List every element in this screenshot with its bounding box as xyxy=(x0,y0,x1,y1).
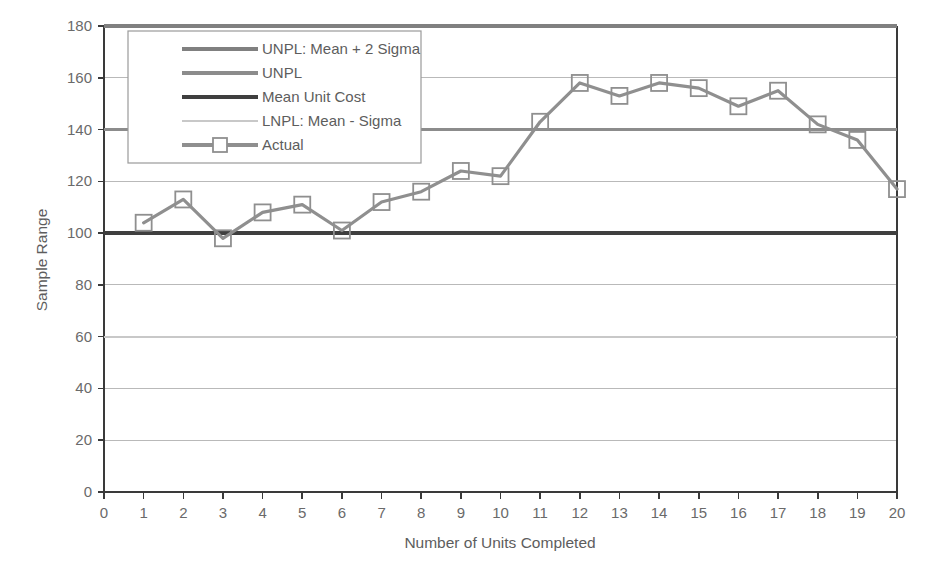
x-tick-label: 7 xyxy=(377,504,385,521)
y-tick-label: 80 xyxy=(75,276,92,293)
x-tick-label: 6 xyxy=(338,504,346,521)
x-tick-label: 17 xyxy=(770,504,787,521)
control-chart: 020406080100120140160180 012345678910111… xyxy=(0,0,941,581)
x-tick-label: 16 xyxy=(730,504,747,521)
x-tick-label: 20 xyxy=(889,504,906,521)
x-tick-label: 15 xyxy=(690,504,707,521)
y-tick-label: 180 xyxy=(67,17,92,34)
x-tick-label: 12 xyxy=(571,504,588,521)
legend-item-label: LNPL: Mean - Sigma xyxy=(262,112,402,129)
y-tick-label: 60 xyxy=(75,328,92,345)
y-tick-label: 0 xyxy=(84,483,92,500)
legend-item-label: Mean Unit Cost xyxy=(262,88,366,105)
y-tick-label: 140 xyxy=(67,121,92,138)
legend: UNPL: Mean + 2 SigmaUNPLMean Unit CostLN… xyxy=(128,31,421,163)
x-tick-label: 5 xyxy=(298,504,306,521)
x-tick-label: 10 xyxy=(492,504,509,521)
x-tick-label: 18 xyxy=(809,504,826,521)
y-tick-label: 40 xyxy=(75,379,92,396)
legend-item-label: Actual xyxy=(262,136,304,153)
x-tick-label: 2 xyxy=(179,504,187,521)
x-tick-label: 1 xyxy=(139,504,147,521)
x-tick-label: 14 xyxy=(651,504,668,521)
x-axis-ticks xyxy=(104,492,897,499)
x-axis-title: Number of Units Completed xyxy=(404,534,595,551)
x-tick-label: 13 xyxy=(611,504,628,521)
y-axis-title: Sample Range xyxy=(33,209,50,312)
legend-swatch-marker xyxy=(213,138,227,152)
x-tick-label: 3 xyxy=(219,504,227,521)
y-tick-label: 160 xyxy=(67,69,92,86)
y-tick-label: 20 xyxy=(75,431,92,448)
y-tick-label: 100 xyxy=(67,224,92,241)
chart-container: 020406080100120140160180 012345678910111… xyxy=(0,0,941,581)
x-tick-label: 19 xyxy=(849,504,866,521)
legend-item-label: UNPL xyxy=(262,64,302,81)
x-tick-label: 0 xyxy=(100,504,108,521)
x-tick-label: 4 xyxy=(258,504,266,521)
x-tick-label: 8 xyxy=(417,504,425,521)
y-tick-label: 120 xyxy=(67,172,92,189)
x-tick-label: 9 xyxy=(457,504,465,521)
x-axis-tick-labels: 01234567891011121314151617181920 xyxy=(100,504,906,521)
x-tick-label: 11 xyxy=(532,504,548,521)
legend-item-label: UNPL: Mean + 2 Sigma xyxy=(262,40,421,57)
